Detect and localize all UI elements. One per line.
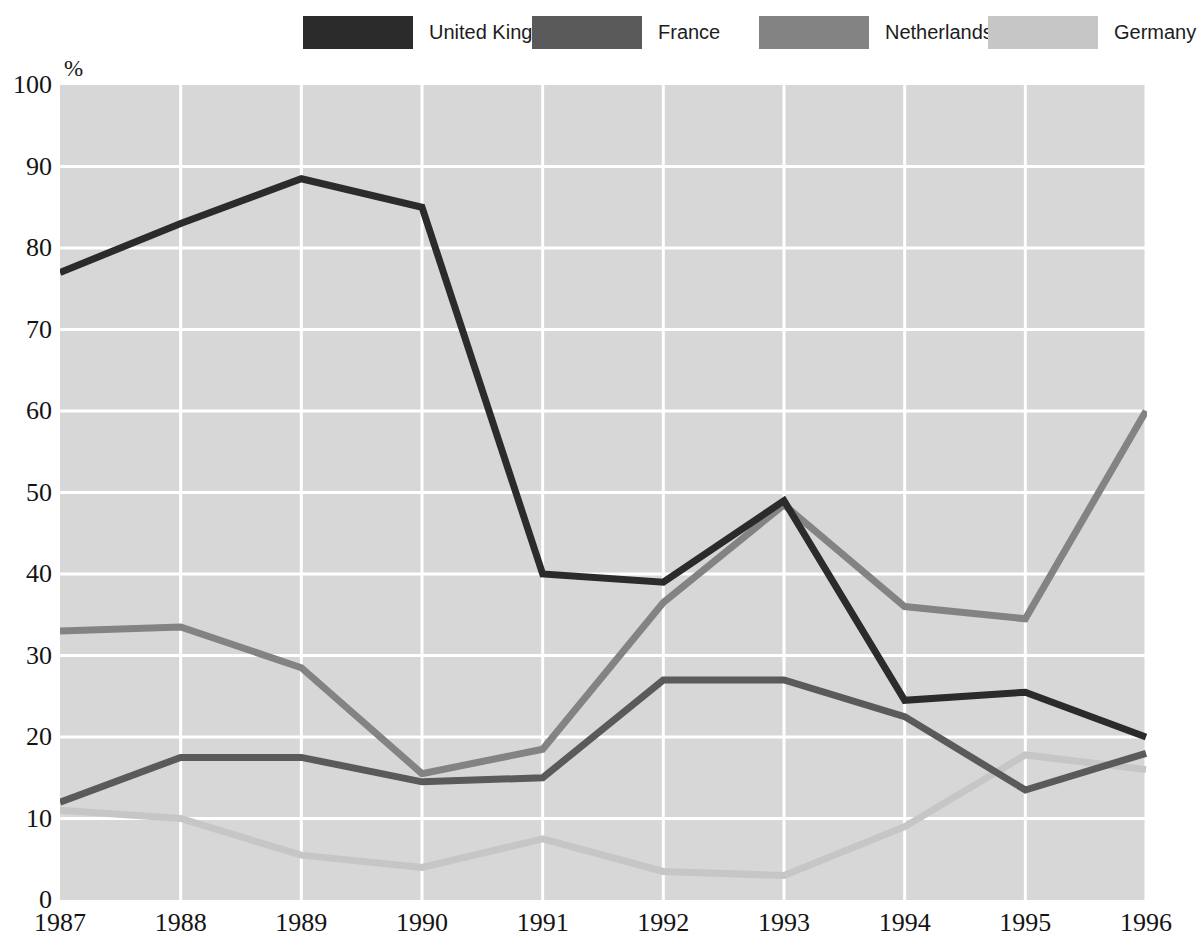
- series-line-netherlands: [60, 411, 1146, 774]
- x-axis-tick-label: 1994: [845, 910, 965, 936]
- series-line-germany: [60, 755, 1146, 876]
- legend-label: France: [658, 22, 720, 42]
- legend-label: Germany: [1114, 22, 1196, 42]
- legend-item-germany[interactable]: Germany: [988, 14, 1196, 50]
- y-axis-tick-label: 90: [4, 154, 52, 180]
- series-line-united-kingdom: [60, 179, 1146, 737]
- legend-swatch-icon: [759, 16, 869, 49]
- x-axis-tick-label: 1993: [724, 910, 844, 936]
- x-axis-tick-label: 1988: [121, 910, 241, 936]
- y-axis-tick-label: 30: [4, 643, 52, 669]
- y-axis-unit-label: %: [64, 57, 83, 80]
- y-axis: 1009080706050403020100: [0, 0, 52, 951]
- x-axis-tick-label: 1991: [483, 910, 603, 936]
- y-axis-tick-label: 70: [4, 317, 52, 343]
- legend-item-netherlands[interactable]: Netherlands: [759, 14, 993, 50]
- y-axis-tick-label: 50: [4, 480, 52, 506]
- y-axis-tick-label: 60: [4, 398, 52, 424]
- plot-svg: [60, 85, 1147, 900]
- legend-swatch-icon: [988, 16, 1098, 49]
- series-lines: [60, 179, 1146, 876]
- legend-swatch-icon: [303, 16, 413, 49]
- x-axis-tick-label: 1992: [603, 910, 723, 936]
- plot-area: [60, 85, 1147, 900]
- x-axis-tick-label: 1995: [965, 910, 1085, 936]
- y-axis-tick-label: 100: [4, 72, 52, 98]
- x-axis-tick-label: 1996: [1086, 910, 1201, 936]
- legend-label: Netherlands: [885, 22, 993, 42]
- y-axis-tick-label: 40: [4, 561, 52, 587]
- x-axis-tick-label: 1987: [0, 910, 120, 936]
- legend-item-france[interactable]: France: [532, 14, 720, 50]
- y-axis-tick-label: 80: [4, 235, 52, 261]
- y-axis-tick-label: 20: [4, 724, 52, 750]
- y-axis-tick-label: 10: [4, 806, 52, 832]
- x-axis-tick-label: 1990: [362, 910, 482, 936]
- chart-legend: United Kingdom France Netherlands German…: [0, 14, 1159, 50]
- legend-swatch-icon: [532, 16, 642, 49]
- x-axis-tick-label: 1989: [241, 910, 361, 936]
